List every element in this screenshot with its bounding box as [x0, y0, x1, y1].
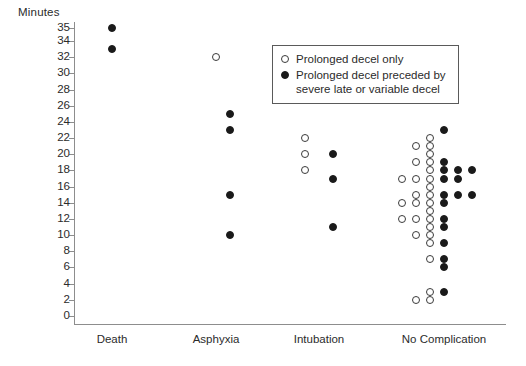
data-point-filled — [108, 24, 116, 32]
y-tick-label: 32 — [57, 49, 70, 63]
data-point-open — [426, 223, 434, 231]
data-point-filled — [226, 191, 234, 199]
data-point-open — [426, 150, 434, 158]
y-tick-label: 35 — [57, 20, 70, 34]
data-point-open — [426, 288, 434, 296]
y-tick-label: 8 — [64, 243, 70, 257]
data-point-open — [301, 150, 309, 158]
data-point-open — [426, 215, 434, 223]
data-point-filled — [329, 175, 337, 183]
data-point-open — [412, 215, 420, 223]
legend: Prolonged decel only Prolonged decel pre… — [272, 45, 459, 104]
data-point-filled — [440, 166, 448, 174]
data-point-open — [426, 175, 434, 183]
legend-entry-filled: Prolonged decel preceded by severe late … — [281, 68, 446, 96]
legend-label-filled-line2: severe late or variable decel — [296, 82, 446, 96]
data-point-open — [426, 142, 434, 150]
y-tick-label: 4 — [64, 276, 70, 290]
data-point-filled — [468, 191, 476, 199]
data-point-filled — [440, 223, 448, 231]
y-tick-label: 0 — [64, 308, 70, 322]
data-point-filled — [440, 263, 448, 271]
data-point-filled — [454, 166, 462, 174]
data-point-open — [426, 158, 434, 166]
data-point-filled — [440, 239, 448, 247]
data-point-filled — [329, 150, 337, 158]
data-point-filled — [440, 199, 448, 207]
data-point-open — [412, 175, 420, 183]
x-category-label-death: Death — [97, 333, 128, 345]
data-point-open — [412, 142, 420, 150]
data-point-open — [426, 296, 434, 304]
y-tick-label: 30 — [57, 65, 70, 79]
data-point-filled — [440, 288, 448, 296]
data-point-open — [426, 207, 434, 215]
data-point-open — [398, 199, 406, 207]
data-point-open — [426, 239, 434, 247]
data-point-open — [301, 134, 309, 142]
data-point-open — [426, 134, 434, 142]
x-category-label-intubation: Intubation — [294, 333, 345, 345]
y-tick-label: 14 — [57, 195, 70, 209]
data-point-open — [412, 199, 420, 207]
data-point-filled — [329, 223, 337, 231]
y-tick-label: 18 — [57, 162, 70, 176]
scatter-plot-figure: Minutes 02468101214161820222426283032343… — [0, 0, 526, 366]
data-point-filled — [440, 158, 448, 166]
data-point-filled — [440, 126, 448, 134]
data-point-open — [398, 175, 406, 183]
data-point-filled — [440, 191, 448, 199]
y-tick-label: 22 — [57, 130, 70, 144]
y-tick-label: 10 — [57, 227, 70, 241]
y-tick-label: 34 — [57, 33, 70, 47]
data-point-open — [412, 296, 420, 304]
data-point-open — [426, 191, 434, 199]
data-point-open — [412, 231, 420, 239]
x-axis-line — [74, 324, 506, 325]
data-point-open — [212, 53, 220, 61]
data-point-open — [426, 255, 434, 263]
data-point-open — [412, 158, 420, 166]
legend-entry-open: Prolonged decel only — [281, 52, 446, 66]
data-point-filled — [468, 166, 476, 174]
data-point-open — [412, 191, 420, 199]
data-point-open — [426, 231, 434, 239]
data-point-filled — [226, 110, 234, 118]
data-point-filled — [440, 175, 448, 183]
filled-circle-marker-icon — [281, 71, 289, 79]
open-circle-marker-icon — [281, 55, 289, 63]
y-axis-title: Minutes — [18, 6, 60, 18]
y-tick-label: 28 — [57, 82, 70, 96]
y-tick-label: 20 — [57, 146, 70, 160]
y-tick-label: 24 — [57, 114, 70, 128]
data-point-filled — [440, 215, 448, 223]
data-point-filled — [226, 126, 234, 134]
data-point-open — [426, 183, 434, 191]
data-point-filled — [226, 231, 234, 239]
y-tick-label: 2 — [64, 292, 70, 306]
legend-label-open: Prolonged decel only — [296, 52, 403, 66]
x-category-label-no-complication: No Complication — [402, 333, 486, 345]
data-point-open — [426, 166, 434, 174]
y-tick-label: 12 — [57, 211, 70, 225]
data-point-filled — [454, 175, 462, 183]
y-tick-label: 26 — [57, 98, 70, 112]
legend-label-filled-line1: Prolonged decel preceded by — [296, 68, 446, 82]
data-point-open — [426, 199, 434, 207]
data-point-filled — [108, 45, 116, 53]
data-point-filled — [454, 191, 462, 199]
data-point-open — [301, 166, 309, 174]
data-point-filled — [440, 255, 448, 263]
x-category-label-asphyxia: Asphyxia — [193, 333, 240, 345]
y-axis-line — [74, 22, 75, 325]
y-tick-label: 16 — [57, 179, 70, 193]
data-point-open — [398, 215, 406, 223]
y-tick-label: 6 — [64, 259, 70, 273]
